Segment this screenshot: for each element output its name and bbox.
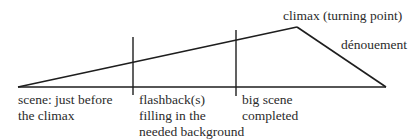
start-label-line2: the climax — [18, 108, 75, 124]
denouement-label: dénouement — [341, 37, 407, 53]
flashback-label-line3: needed background — [139, 124, 244, 139]
climax-label: climax (turning point) — [283, 8, 402, 24]
big-scene-label-line1: big scene — [242, 92, 293, 108]
rising-action-line — [18, 27, 297, 87]
falling-action-line — [297, 27, 386, 87]
flashback-label-line1: flashback(s) — [139, 92, 205, 108]
flashback-label-line2: filling in the — [139, 108, 206, 124]
start-label-line1: scene: just before — [18, 92, 112, 108]
big-scene-label-line2: completed — [242, 108, 298, 124]
